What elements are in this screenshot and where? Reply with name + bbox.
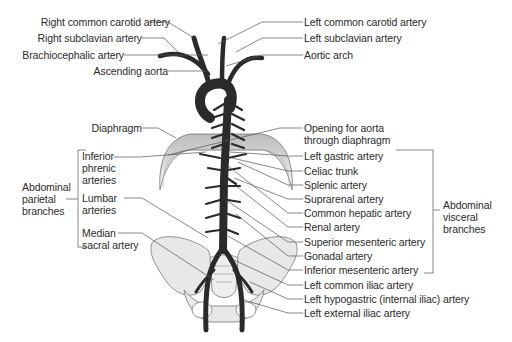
- label-left-hypogastric-artery: Left hypogastric (internal iliac) artery: [304, 293, 469, 305]
- label-splenic-artery: Splenic artery: [304, 179, 367, 191]
- label-brachiocephalic-artery: Brachiocephalic artery: [22, 49, 124, 61]
- label-celiac-trunk: Celiac trunk: [304, 165, 358, 177]
- label-line: Abdominal: [443, 199, 492, 211]
- label-opening-for-aorta: Opening for aorta through diaphragm: [304, 122, 390, 146]
- label-right-subclavian-artery: Right subclavian artery: [38, 32, 143, 44]
- label-right-common-carotid-artery: Right common carotid artery: [41, 16, 170, 28]
- label-median-sacral-artery: Median sacral artery: [82, 227, 138, 251]
- label-line: parietal: [22, 193, 71, 205]
- label-suprarenal-artery: Suprarenal artery: [304, 193, 383, 205]
- label-line: visceral: [443, 211, 492, 223]
- label-line: arteries: [82, 174, 116, 186]
- label-aortic-arch: Aortic arch: [304, 49, 353, 61]
- label-line: Abdominal: [22, 181, 71, 193]
- label-line: Lumbar: [82, 192, 117, 204]
- label-line: Inferior: [82, 150, 116, 162]
- group-label-abdominal-visceral-branches: Abdominal visceral branches: [443, 199, 492, 235]
- label-ascending-aorta: Ascending aorta: [94, 65, 168, 77]
- label-line: branches: [443, 223, 492, 235]
- label-line: arteries: [82, 204, 117, 216]
- label-left-common-iliac-artery: Left common iliac artery: [304, 279, 413, 291]
- label-line: phrenic: [82, 162, 116, 174]
- label-diaphragm: Diaphragm: [92, 122, 142, 134]
- label-superior-mesenteric-artery: Superior mesenteric artery: [304, 236, 425, 248]
- label-inferior-phrenic-arteries: Inferior phrenic arteries: [82, 150, 116, 186]
- label-line: branches: [22, 205, 71, 217]
- group-label-abdominal-parietal-branches: Abdominal parietal branches: [22, 181, 71, 217]
- label-renal-artery: Renal artery: [304, 221, 360, 233]
- label-common-hepatic-artery: Common hepatic artery: [304, 207, 411, 219]
- label-line: Median: [82, 227, 138, 239]
- label-left-external-iliac-artery: Left external iliac artery: [304, 307, 410, 319]
- label-line: sacral artery: [82, 239, 138, 251]
- label-line: through diaphragm: [304, 134, 390, 146]
- label-left-gastric-artery: Left gastric artery: [304, 150, 383, 162]
- label-line: Opening for aorta: [304, 122, 390, 134]
- aorta-diagram: Right common carotid artery Right subcla…: [0, 0, 512, 342]
- label-gonadal-artery: Gonadal artery: [304, 250, 372, 262]
- label-lumbar-arteries: Lumbar arteries: [82, 192, 117, 216]
- label-inferior-mesenteric-artery: Inferior mesenteric artery: [304, 264, 418, 276]
- label-left-subclavian-artery: Left subclavian artery: [304, 32, 402, 44]
- label-left-common-carotid-artery: Left common carotid artery: [304, 16, 426, 28]
